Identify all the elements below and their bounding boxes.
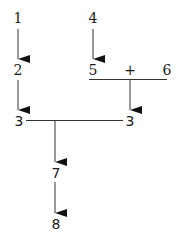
node-1: 1 xyxy=(14,10,23,26)
node-7: 7 xyxy=(52,165,61,181)
node-8: 8 xyxy=(52,216,61,232)
node-6: 6 xyxy=(163,62,172,78)
node-5: 5 xyxy=(89,62,98,78)
node-2: 2 xyxy=(14,62,23,78)
derivation-diagram: 1 4 2 5 + 6 3 3 7 8 xyxy=(0,0,178,244)
node-4: 4 xyxy=(89,10,98,26)
plus-operator: + xyxy=(124,62,136,78)
node-3-right: 3 xyxy=(126,113,135,129)
node-3-left: 3 xyxy=(15,113,24,129)
